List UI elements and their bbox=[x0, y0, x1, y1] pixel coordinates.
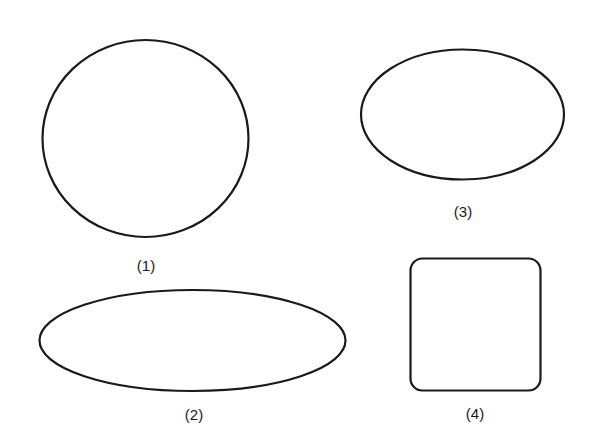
rounded-square-shape bbox=[411, 259, 541, 391]
shape-3-label: (3) bbox=[454, 203, 472, 220]
ellipse-shape bbox=[361, 50, 564, 180]
wide-ellipse-shape bbox=[40, 290, 346, 391]
shape-1-group: (1) bbox=[43, 40, 249, 274]
shape-3-group: (3) bbox=[361, 50, 564, 221]
shape-4-group: (4) bbox=[411, 259, 541, 423]
circle-shape bbox=[43, 40, 249, 237]
shape-2-group: (2) bbox=[40, 290, 346, 423]
shape-1-label: (1) bbox=[137, 257, 155, 274]
shapes-diagram: (1) (3) (2) (4) bbox=[0, 0, 591, 448]
shape-4-label: (4) bbox=[466, 405, 484, 422]
shape-2-label: (2) bbox=[185, 406, 203, 423]
